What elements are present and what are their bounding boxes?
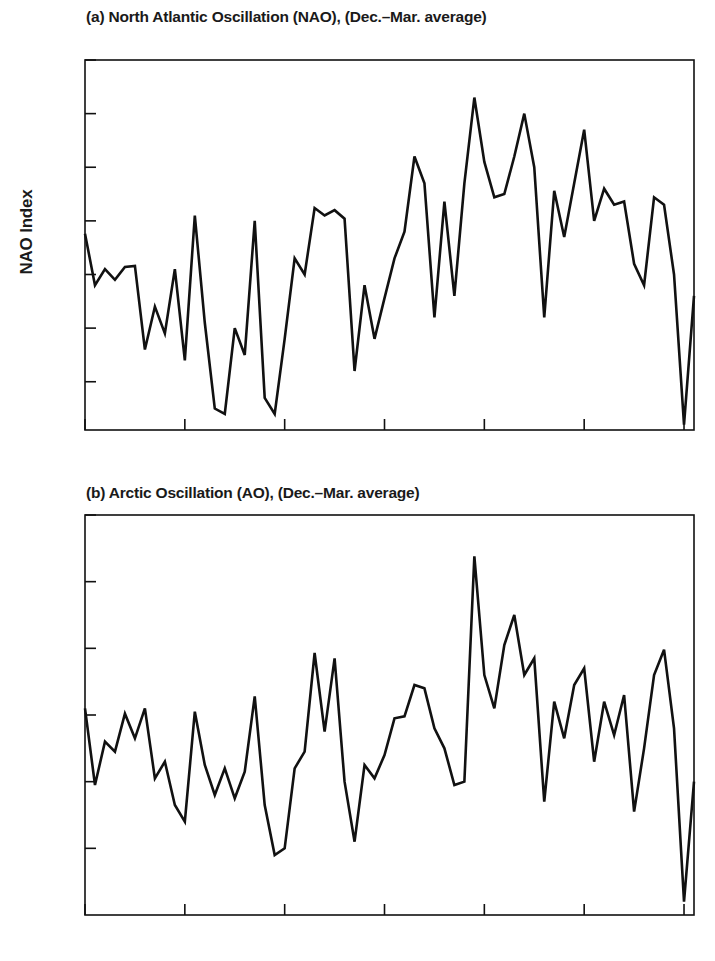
data-line-panel-a <box>85 98 694 425</box>
panel-a-plot <box>0 0 715 480</box>
panel-nao: (a) North Atlantic Oscillation (NAO), (D… <box>0 0 715 480</box>
figure-nao-ao-timeseries: (a) North Atlantic Oscillation (NAO), (D… <box>0 0 715 961</box>
panel-ao: (b) Arctic Oscillation (AO), (Dec.–Mar. … <box>0 470 715 961</box>
plot-frame <box>85 60 694 430</box>
panel-b-plot <box>0 470 715 961</box>
data-line-panel-b <box>85 556 694 901</box>
